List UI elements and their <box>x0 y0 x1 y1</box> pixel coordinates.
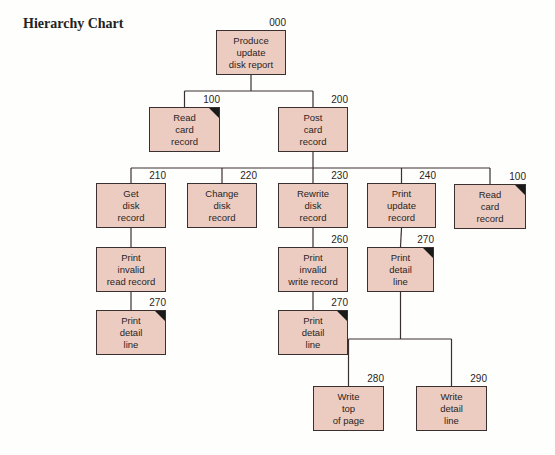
module-box-240[interactable]: Print update record <box>367 183 436 228</box>
module-number: 210 <box>136 170 166 181</box>
module-number: 200 <box>318 94 348 105</box>
module-label: Print detail line <box>302 315 325 351</box>
common-module-corner-icon <box>155 311 165 321</box>
common-module-corner-icon <box>515 185 525 195</box>
module-number: 240 <box>406 170 436 181</box>
module-label: Print invalid read record <box>107 252 156 288</box>
module-box-unnumbered[interactable]: Print invalid read record <box>96 247 166 292</box>
common-module-corner-icon <box>209 108 219 118</box>
module-number: 100 <box>190 94 220 105</box>
module-number: 000 <box>256 17 286 28</box>
module-label: Write top of page <box>333 391 365 427</box>
module-box-100[interactable]: Read card record <box>454 184 526 229</box>
module-box-210[interactable]: Get disk record <box>96 183 166 228</box>
module-label: Print invalid write record <box>288 252 338 288</box>
module-label: Print update record <box>387 188 416 224</box>
module-box-270[interactable]: Print detail line <box>96 310 166 355</box>
module-label: Get disk record <box>118 188 145 224</box>
module-box-280[interactable]: Write top of page <box>313 386 384 431</box>
module-number: 270 <box>404 234 434 245</box>
common-module-corner-icon <box>423 248 433 258</box>
module-box-290[interactable]: Write detail line <box>416 386 487 431</box>
module-label: Change disk record <box>205 188 238 224</box>
module-box-220[interactable]: Change disk record <box>187 183 257 228</box>
module-label: Post card record <box>300 112 327 148</box>
module-number: 270 <box>318 297 348 308</box>
module-number: 290 <box>457 373 487 384</box>
module-label: Read card record <box>171 112 198 148</box>
common-module-corner-icon <box>337 311 347 321</box>
module-number: 220 <box>227 170 257 181</box>
module-box-000[interactable]: Produce update disk report <box>216 30 286 75</box>
module-label: Rewrite disk record <box>297 188 329 224</box>
module-box-100[interactable]: Read card record <box>149 107 220 152</box>
module-box-270[interactable]: Print detail line <box>367 247 434 292</box>
module-number: 260 <box>318 234 348 245</box>
module-number: 280 <box>354 373 384 384</box>
module-label: Write detail line <box>440 391 463 427</box>
module-label: Print detail line <box>389 252 412 288</box>
module-label: Produce update disk report <box>229 35 273 71</box>
module-box-230[interactable]: Rewrite disk record <box>278 183 348 228</box>
module-label: Read card record <box>477 189 504 225</box>
module-number: 230 <box>318 170 348 181</box>
module-number: 100 <box>496 171 526 182</box>
module-box-270[interactable]: Print detail line <box>278 310 348 355</box>
module-box-260[interactable]: Print invalid write record <box>278 247 348 292</box>
module-box-200[interactable]: Post card record <box>278 107 348 152</box>
module-number: 270 <box>136 297 166 308</box>
module-label: Print detail line <box>120 315 143 351</box>
